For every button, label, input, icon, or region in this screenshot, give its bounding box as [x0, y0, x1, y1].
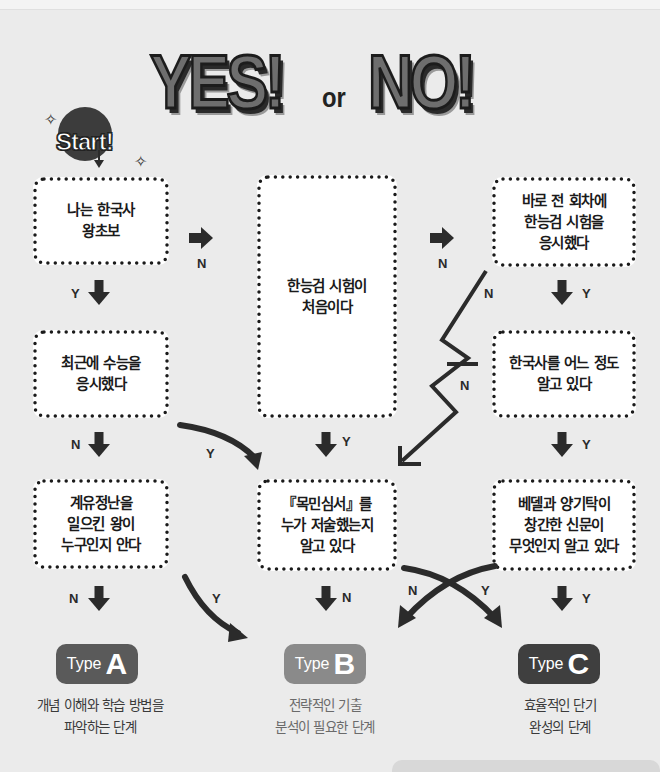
type-letter: A — [106, 649, 128, 679]
question-text: 나는 한국사 왕초보 — [67, 200, 134, 242]
type-a-description: 개념 이해와 학습 방법을 파악하는 단계 — [0, 694, 200, 738]
label-q4-yes: Y — [342, 434, 351, 449]
sparkle-icon: ✧ — [134, 154, 147, 170]
arrow-right-icon — [189, 227, 213, 249]
title-or: or — [322, 82, 346, 114]
type-word: Type — [67, 655, 102, 673]
type-word: Type — [529, 655, 564, 673]
question-box-q1: 나는 한국사 왕초보 — [33, 177, 169, 265]
label-q2-no: N — [71, 437, 80, 452]
label-q1-no: N — [197, 256, 206, 271]
question-box-q8: 베델과 양기탁이 창간한 신문이 무엇인지 알고 있다 — [492, 479, 636, 571]
arrow-down-icon — [88, 280, 110, 305]
sparkle-icon: ✧ — [44, 112, 57, 128]
type-b-description: 전략적인 기출 분석이 필요한 단계 — [230, 694, 420, 738]
question-box-q7: 한국사를 어느 정도 알고 있다 — [492, 330, 636, 418]
curved-arrow-icon — [180, 425, 262, 470]
question-box-q6: 바로 전 회차에 한능검 시험을 응시했다 — [492, 177, 636, 267]
label-q6-yes: Y — [582, 286, 591, 301]
start-label: Start! — [56, 128, 113, 156]
label-q8-cross-yes: Y — [481, 583, 490, 598]
curved-arrow-icon — [185, 577, 248, 642]
label-q7-no: N — [460, 378, 469, 393]
title-no: NO! — [368, 44, 472, 120]
question-text: 『목민심서』를 누가 저술했는지 알고 있다 — [281, 494, 373, 557]
label-q5-no: N — [342, 590, 351, 605]
arrow-down-icon — [551, 586, 573, 611]
label-q8-yes: Y — [582, 591, 591, 606]
type-b-badge: Type B — [284, 644, 366, 684]
question-box-q4: 한능검 시험이 처음이다 — [257, 175, 397, 418]
arrow-right-icon — [430, 227, 454, 249]
label-q7-yes: Y — [582, 437, 591, 452]
question-box-q5: 『목민심서』를 누가 저술했는지 알고 있다 — [257, 479, 397, 571]
arrow-down-icon — [315, 432, 337, 457]
label-q2-yes: Y — [206, 446, 215, 461]
label-q6-no: N — [484, 286, 493, 301]
type-c-badge: Type C — [518, 644, 600, 684]
arrow-down-icon — [551, 280, 573, 305]
type-letter: C — [568, 649, 590, 679]
question-box-q3: 계유정난을 일으킨 왕이 누구인지 안다 — [33, 479, 169, 569]
zigzag-arrow-icon — [400, 271, 486, 464]
label-q3-yes: Y — [212, 591, 221, 606]
label-q3-no: N — [69, 591, 78, 606]
label-q1-yes: Y — [71, 286, 80, 301]
type-c-description: 효율적인 단기 완성의 단계 — [470, 694, 650, 738]
question-text: 최근에 수능을 응시했다 — [61, 353, 141, 395]
top-strip — [0, 0, 660, 10]
question-text: 바로 전 회차에 한능검 시험을 응시했다 — [522, 191, 606, 254]
title-yes: YES! — [150, 44, 282, 120]
question-text: 한능검 시험이 처음이다 — [287, 276, 367, 318]
arrow-down-icon — [88, 432, 110, 457]
type-a-badge: Type A — [56, 644, 138, 684]
type-letter: B — [334, 649, 356, 679]
question-text: 한국사를 어느 정도 알고 있다 — [509, 353, 618, 395]
question-box-q2: 최근에 수능을 응시했다 — [33, 330, 169, 418]
arrow-down-icon — [315, 586, 337, 611]
bottom-card — [392, 760, 660, 772]
type-word: Type — [295, 655, 330, 673]
arrow-down-icon — [551, 432, 573, 457]
label-q4-no: N — [438, 256, 447, 271]
arrow-down-icon — [88, 586, 110, 611]
question-text: 베델과 양기탁이 창간한 신문이 무엇인지 알고 있다 — [509, 494, 618, 557]
label-q8-no: N — [408, 583, 417, 598]
question-text: 계유정난을 일으킨 왕이 누구인지 안다 — [61, 493, 141, 556]
